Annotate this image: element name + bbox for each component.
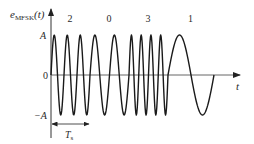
symbol-label: 1: [188, 13, 193, 24]
ytick-bottom: −A: [34, 110, 48, 121]
symbol-label: 0: [107, 13, 112, 24]
symbol-period-label: Ts: [65, 129, 74, 142]
ytick-zero: 0: [43, 70, 48, 81]
symbol-label: 3: [146, 13, 151, 24]
ytick-top: A: [39, 30, 47, 41]
y-axis-label: eMFSK(t): [10, 8, 45, 22]
y-axis-label-subscript: MFSK: [15, 14, 34, 22]
mfsk-waveform-figure: eMFSK(t) A 0 −A t 2031 Ts: [0, 0, 254, 144]
y-axis-label-argument: (t): [34, 8, 45, 21]
t-axis-label: t: [236, 80, 240, 92]
symbol-labels: 2031: [68, 13, 194, 24]
symbol-label: 2: [68, 13, 73, 24]
symbol-period-label-subscript: s: [71, 134, 74, 142]
